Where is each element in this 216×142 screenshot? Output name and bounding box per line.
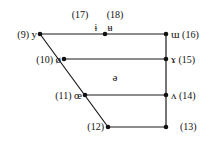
vowel-chart: (17) (18) ɨ ʉ (9) y (10) ø (11) œ (12) ɯ… bbox=[0, 0, 216, 142]
vowel-symbol-9: y bbox=[32, 28, 38, 40]
vowel-dots bbox=[38, 32, 169, 130]
dot-13 bbox=[164, 125, 169, 130]
dot-15 bbox=[164, 57, 169, 62]
vowel-number-14: (14) bbox=[179, 90, 196, 101]
vowel-symbol-15: ɤ bbox=[171, 53, 176, 65]
vowel-label-9: (9) y bbox=[17, 29, 37, 40]
vowel-number-9: (9) bbox=[17, 29, 29, 40]
quadrilateral-edges bbox=[40, 34, 166, 127]
dot-10 bbox=[62, 57, 67, 62]
dot-9 bbox=[38, 32, 43, 37]
vowel-symbol-schwa: ə bbox=[113, 72, 118, 83]
vowel-number-17: (17) bbox=[72, 10, 89, 20]
vowel-number-16: (16) bbox=[182, 29, 199, 40]
dot-11 bbox=[83, 93, 88, 98]
vowel-number-10: (10) bbox=[36, 54, 53, 65]
vowel-number-15: (15) bbox=[178, 54, 195, 65]
dot-12 bbox=[106, 125, 111, 130]
vowel-symbol-14: ʌ bbox=[171, 89, 177, 101]
vowel-symbol-11: œ bbox=[74, 89, 82, 101]
vowel-symbol-17: ɨ bbox=[95, 23, 98, 33]
dot-14 bbox=[164, 93, 169, 98]
vowel-label-10: (10) ø bbox=[36, 54, 61, 65]
vowel-symbol-16: ɯ bbox=[171, 28, 180, 40]
vowel-number-18: (18) bbox=[107, 10, 124, 20]
vowel-label-11: (11) œ bbox=[55, 90, 82, 101]
vowel-symbol-18: ʉ bbox=[108, 23, 113, 33]
vowel-label-15: ɤ (15) bbox=[171, 54, 195, 65]
vowel-number-11: (11) bbox=[55, 90, 71, 101]
vowel-label-14: ʌ (14) bbox=[171, 90, 196, 101]
vowel-symbol-10: ø bbox=[56, 53, 62, 65]
edge-front-line bbox=[40, 34, 108, 127]
vowel-number-13: (13) bbox=[180, 122, 197, 132]
vowel-number-12: (12) bbox=[87, 122, 104, 132]
dot-16 bbox=[164, 32, 169, 37]
vowel-label-16: ɯ (16) bbox=[171, 29, 199, 40]
